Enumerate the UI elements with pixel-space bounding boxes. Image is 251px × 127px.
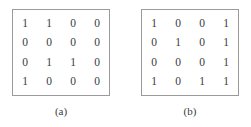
- matrix-row: 0 1 1 0: [13, 53, 109, 72]
- matrix-cell: 0: [62, 14, 84, 33]
- matrix-row: 1 1 0 0: [13, 14, 109, 33]
- panel-caption-b: (b): [141, 105, 239, 117]
- matrix-cell: 0: [62, 72, 84, 91]
- matrix-cell: 0: [86, 53, 108, 72]
- matrix-cell: 1: [14, 72, 36, 91]
- matrix-cell: 0: [167, 53, 189, 72]
- matrix-cell: 0: [143, 53, 165, 72]
- matrix-row: 1 0 0 1: [142, 14, 238, 33]
- figure-container: 1 1 0 0 0 0 0 0 0 1 1 0 1 0 0 0: [0, 0, 251, 127]
- matrix-cell: 1: [215, 33, 237, 52]
- matrix-cell: 0: [14, 53, 36, 72]
- matrix-cell: 1: [143, 14, 165, 33]
- matrix-cell: 0: [191, 33, 213, 52]
- matrix-cell: 0: [167, 14, 189, 33]
- matrix-cell: 1: [191, 72, 213, 91]
- matrix-row: 0 1 0 1: [142, 33, 238, 52]
- matrix-cell: 0: [86, 14, 108, 33]
- matrix-row: 1 0 1 1: [142, 72, 238, 91]
- panel-caption-a: (a): [12, 105, 110, 117]
- matrix-cell: 1: [38, 53, 60, 72]
- matrix-cell: 1: [215, 72, 237, 91]
- matrix-cell: 0: [167, 72, 189, 91]
- matrix-cell: 1: [38, 14, 60, 33]
- matrix-cell: 0: [14, 33, 36, 52]
- matrix-cell: 0: [38, 33, 60, 52]
- matrix-a: 1 1 0 0 0 0 0 0 0 1 1 0 1 0 0 0: [12, 9, 110, 96]
- matrix-cell: 1: [143, 72, 165, 91]
- matrix-cell: 0: [191, 14, 213, 33]
- matrix-cell: 0: [143, 33, 165, 52]
- matrix-cell: 1: [167, 33, 189, 52]
- matrix-cell: 1: [62, 53, 84, 72]
- matrix-row: 0 0 0 1: [142, 53, 238, 72]
- matrix-cell: 0: [62, 33, 84, 52]
- matrix-row: 1 0 0 0: [13, 72, 109, 91]
- matrix-cell: 1: [14, 14, 36, 33]
- matrix-cell: 0: [38, 72, 60, 91]
- matrix-b: 1 0 0 1 0 1 0 1 0 0 0 1 1 0 1 1: [141, 9, 239, 96]
- matrix-cell: 0: [191, 53, 213, 72]
- matrix-row: 0 0 0 0: [13, 33, 109, 52]
- matrix-cell: 1: [215, 14, 237, 33]
- matrix-cell: 0: [86, 33, 108, 52]
- matrix-cell: 0: [86, 72, 108, 91]
- matrix-panel-a: 1 1 0 0 0 0 0 0 0 1 1 0 1 0 0 0: [12, 9, 110, 117]
- matrix-cell: 1: [215, 53, 237, 72]
- matrix-panel-b: 1 0 0 1 0 1 0 1 0 0 0 1 1 0 1 1: [141, 9, 239, 117]
